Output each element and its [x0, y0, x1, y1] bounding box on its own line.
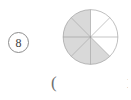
fraction-pie-diagram	[62, 8, 119, 66]
answer-open-paren: (	[51, 74, 57, 91]
item-number-label: 8	[16, 37, 22, 49]
pie-svg	[62, 8, 119, 66]
item-number-badge: 8	[8, 32, 29, 53]
clipped-edge-glyph: 1	[126, 76, 128, 90]
